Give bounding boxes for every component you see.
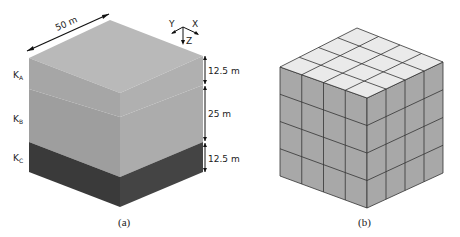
axis-y-label: Y: [168, 19, 175, 29]
layer-c-thickness: 12.5 m: [208, 154, 240, 164]
width-label: 50 m: [54, 14, 79, 33]
grid-cube: [280, 28, 443, 208]
caption-a: (a): [118, 216, 131, 229]
axes-indicator-icon: Y X Z: [168, 19, 199, 46]
axis-x-label: X: [192, 19, 198, 29]
layer-a-label: KA: [13, 70, 24, 81]
layer-a-thickness: 12.5 m: [208, 66, 240, 76]
layer-b-label: KB: [13, 114, 23, 125]
layer-b-thickness: 25 m: [208, 109, 231, 119]
figure-canvas: 50 m Y X Z 12.5 m 25 m: [0, 0, 460, 237]
layer-c-label: KC: [13, 153, 23, 164]
layered-cube: 50 m Y X Z 12.5 m 25 m: [13, 14, 240, 229]
caption-b: (b): [358, 216, 371, 229]
axis-z-label: Z: [186, 36, 192, 46]
